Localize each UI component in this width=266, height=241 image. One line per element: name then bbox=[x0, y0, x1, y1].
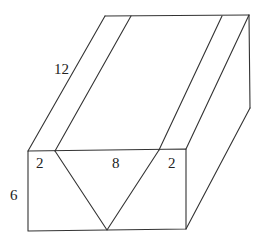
length-label: 12 bbox=[54, 61, 69, 77]
back-right-vertical-edge bbox=[249, 15, 250, 108]
height-label: 6 bbox=[10, 187, 18, 203]
right-margin-label: 2 bbox=[168, 155, 176, 171]
v-groove-front bbox=[55, 150, 159, 230]
bottom-right-edge bbox=[186, 108, 250, 229]
front-face-outline bbox=[28, 149, 186, 231]
box-diagram: 12 2 8 2 6 bbox=[0, 0, 266, 241]
groove-right-ridge bbox=[159, 16, 222, 150]
left-margin-label: 2 bbox=[36, 155, 44, 171]
groove-width-label: 8 bbox=[112, 155, 120, 171]
back-top-edge bbox=[105, 15, 249, 16]
